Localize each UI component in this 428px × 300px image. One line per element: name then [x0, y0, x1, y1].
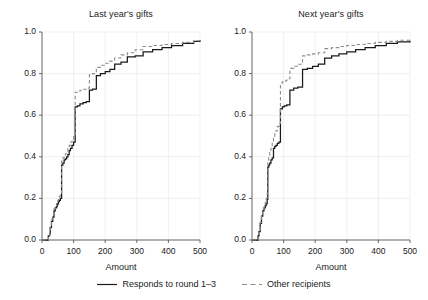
- x-tick-label: 200: [90, 246, 120, 256]
- x-tick-label: 0: [237, 246, 267, 256]
- series-line-other-recipients: [252, 39, 410, 240]
- series-line-other-recipients: [42, 40, 200, 240]
- y-tick-label: 0.2: [10, 192, 36, 202]
- legend-item-other: Other recipients: [242, 279, 331, 289]
- series-line-responds: [42, 40, 200, 240]
- x-tick-label: 300: [332, 246, 362, 256]
- y-tick-label: 1.0: [220, 26, 246, 36]
- y-tick-label: 0.4: [10, 151, 36, 161]
- x-tick-label: 400: [153, 246, 183, 256]
- y-tick-label: 0.2: [220, 192, 246, 202]
- y-tick-label: 1.0: [10, 26, 36, 36]
- x-tick-label: 400: [363, 246, 393, 256]
- figure-root: Last year's gifts Next year's gifts 1.00…: [0, 0, 428, 300]
- y-tick-label: 0.6: [220, 109, 246, 119]
- x-tick-label: 100: [269, 246, 299, 256]
- x-axis-label-right: Amount: [252, 262, 410, 272]
- legend-item-responds: Responds to round 1–3: [97, 279, 216, 289]
- y-tick-label: 0.8: [10, 68, 36, 78]
- x-tick-label: 500: [185, 246, 215, 256]
- y-tick-label: 0.4: [220, 151, 246, 161]
- x-tick-label: 300: [122, 246, 152, 256]
- x-tick-label: 0: [27, 246, 57, 256]
- legend-label-responds: Responds to round 1–3: [122, 279, 216, 289]
- legend-key-solid-icon: [97, 280, 117, 289]
- legend: Responds to round 1–3 Other recipients: [0, 279, 428, 289]
- y-tick-label: 0.8: [220, 68, 246, 78]
- series-line-responds: [252, 41, 410, 240]
- legend-label-other: Other recipients: [267, 279, 331, 289]
- legend-key-dashed-icon: [242, 280, 262, 289]
- y-tick-label: 0.0: [220, 234, 246, 244]
- y-tick-label: 0.0: [10, 234, 36, 244]
- x-tick-label: 500: [395, 246, 425, 256]
- x-tick-label: 200: [300, 246, 330, 256]
- x-axis-label-left: Amount: [42, 262, 200, 272]
- x-tick-label: 100: [59, 246, 89, 256]
- y-tick-label: 0.6: [10, 109, 36, 119]
